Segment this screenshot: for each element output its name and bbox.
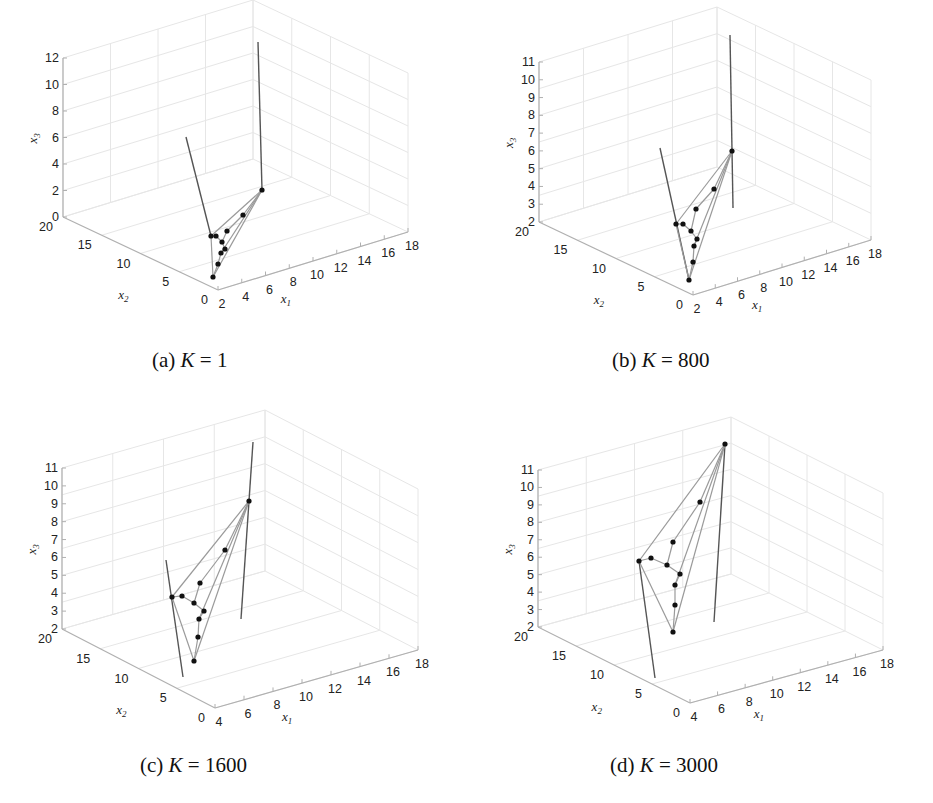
data-point: [664, 562, 669, 567]
caption-b-prefix: (b): [612, 348, 642, 372]
x3-tick-label: 4: [52, 157, 59, 171]
x2-tick-label: 10: [590, 668, 604, 682]
grid-lines: [539, 7, 871, 295]
data-point: [210, 274, 215, 279]
x2-axis: [539, 222, 693, 295]
data-point: [697, 499, 702, 504]
x1-axis-label: x1: [751, 297, 762, 314]
rod-lines: [660, 35, 733, 280]
x3-tick-label: 2: [51, 622, 58, 636]
data-point: [169, 594, 174, 599]
plot-canvas: 0246810120510152024681012141618x3x2x1 23…: [0, 0, 933, 803]
x2-tick-label: 15: [554, 243, 568, 257]
axes: 234567891011051015204681012141618x3x2x1: [500, 463, 894, 724]
data-point: [722, 441, 727, 446]
x2-tick-label: 10: [592, 262, 606, 276]
x2-axis-label: x2: [593, 292, 605, 309]
data-point: [222, 246, 227, 251]
x3-tick-label: 11: [45, 461, 58, 475]
x3-tick-label: 9: [51, 497, 58, 511]
x2-tick-label: 0: [198, 711, 205, 725]
x3-tick-label: 5: [51, 568, 58, 582]
x1-tick-label: 4: [242, 290, 249, 304]
x1-tick-label: 14: [357, 674, 371, 688]
axes: 0246810120510152024681012141618x3x2x1: [25, 51, 419, 311]
caption-a: (a) K = 1: [152, 348, 227, 373]
x3-tick-label: 10: [45, 78, 59, 92]
data-point: [213, 233, 218, 238]
data-point: [218, 250, 223, 255]
x3-tick-label: 6: [52, 131, 59, 145]
data-point: [201, 608, 206, 613]
x1-tick-label: 16: [386, 665, 400, 679]
data-point: [711, 186, 716, 191]
x3-axis-label: x3: [501, 137, 518, 149]
data-point: [197, 580, 202, 585]
data-point: [191, 600, 196, 605]
x1-tick-label: 8: [760, 281, 767, 295]
x1-tick-label: 16: [381, 246, 395, 260]
x3-tick-label: 2: [528, 215, 535, 229]
data-point: [636, 558, 641, 563]
x1-tick-label: 18: [868, 247, 882, 261]
x1-tick-label: 6: [738, 288, 745, 302]
x3-tick-label: 5: [528, 162, 535, 176]
x2-axis-label: x2: [115, 702, 127, 719]
caption-a-var: K: [181, 348, 195, 372]
x2-axis: [63, 217, 218, 290]
data-point: [686, 277, 691, 282]
data-point: [191, 658, 196, 663]
grid-lines: [62, 410, 418, 708]
caption-d-value: = 3000: [654, 753, 718, 777]
data-point: [691, 243, 696, 248]
x1-tick-label: 10: [779, 275, 793, 289]
data-point: [215, 261, 220, 266]
x2-tick-label: 20: [38, 632, 52, 646]
x2-tick-label: 10: [115, 672, 129, 686]
x3-tick-label: 8: [527, 515, 534, 529]
x1-tick-label: 10: [299, 690, 313, 704]
x1-tick-label: 4: [716, 295, 723, 309]
data-point: [179, 593, 184, 598]
data-point: [259, 187, 264, 192]
data-point: [246, 498, 251, 503]
data-point: [680, 221, 685, 226]
data-point: [693, 206, 698, 211]
data-point: [672, 582, 677, 587]
x2-axis: [538, 627, 690, 703]
x3-axis-label: x3: [500, 544, 517, 556]
caption-c: (c) K = 1600: [140, 753, 247, 778]
x3-tick-label: 6: [527, 550, 534, 564]
data-point: [208, 233, 213, 238]
x1-tick-label: 16: [852, 665, 866, 679]
x3-tick-label: 4: [51, 586, 58, 600]
x2-tick-label: 5: [635, 687, 642, 701]
x3-tick-label: 7: [528, 126, 535, 140]
connecting-lines: [172, 501, 249, 661]
caption-b: (b) K = 800: [612, 348, 710, 373]
data-point: [729, 148, 734, 153]
data-point: [694, 236, 699, 241]
x3-tick-label: 2: [52, 184, 59, 198]
x1-tick-label: 12: [801, 268, 815, 282]
axes: 2345678910110510152024681012141618x3x2x1: [501, 55, 882, 316]
data-point: [673, 221, 678, 226]
caption-d-prefix: (d): [610, 753, 640, 777]
data-point: [224, 228, 229, 233]
x3-tick-label: 12: [45, 51, 59, 65]
rod-lines: [166, 442, 253, 677]
x2-tick-label: 20: [514, 630, 528, 644]
caption-b-var: K: [642, 348, 656, 372]
x1-tick-label: 4: [691, 710, 698, 724]
x3-tick-label: 3: [528, 197, 535, 211]
x2-axis: [62, 629, 215, 708]
data-point: [240, 212, 245, 217]
caption-c-value: = 1600: [183, 753, 247, 777]
x3-tick-label: 8: [52, 104, 59, 118]
x1-tick-label: 6: [718, 702, 725, 716]
x3-tick-label: 6: [528, 144, 535, 158]
x3-tick-label: 11: [522, 55, 535, 69]
data-point: [195, 634, 200, 639]
x3-tick-label: 7: [51, 533, 58, 547]
x3-tick-label: 4: [528, 179, 535, 193]
